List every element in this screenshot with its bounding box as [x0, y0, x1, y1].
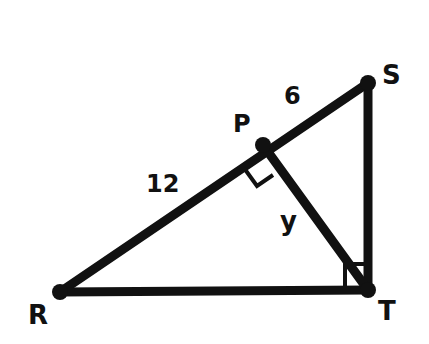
- point-t: [360, 282, 376, 298]
- point-s: [360, 75, 376, 91]
- diagram-canvas: S P R T 6 12 y: [0, 0, 429, 344]
- label-s: S: [382, 62, 401, 88]
- label-p: P: [233, 112, 251, 136]
- label-r: R: [28, 302, 48, 328]
- measure-pt: y: [280, 208, 297, 234]
- measure-ps: 6: [284, 84, 301, 108]
- measure-rp: 12: [146, 172, 179, 196]
- label-t: T: [378, 298, 396, 324]
- segment-rs: [60, 83, 368, 292]
- point-p: [255, 137, 271, 153]
- right-angle-mark-p: [244, 168, 273, 186]
- segment-rt: [60, 290, 368, 292]
- triangle-diagram: [0, 0, 429, 344]
- point-r: [52, 284, 68, 300]
- segment-pt: [263, 145, 368, 290]
